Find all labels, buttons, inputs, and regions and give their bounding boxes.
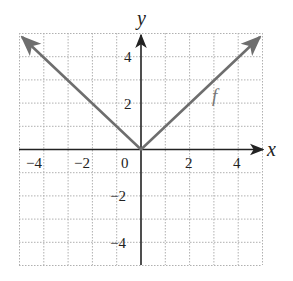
function-label: f: [212, 85, 220, 106]
x-axis-label: x: [266, 138, 276, 160]
y-tick-label: −4: [110, 235, 126, 251]
y-tick-label: 4: [124, 49, 132, 65]
x-tick-label: −2: [74, 155, 90, 171]
y-tick-label: −2: [110, 188, 126, 204]
x-tick-label: −4: [26, 155, 42, 171]
x-tick-label: 2: [185, 155, 193, 171]
y-tick-label: 2: [124, 96, 132, 112]
y-axis-label: y: [135, 7, 146, 30]
coordinate-plane: x y f −4 −2 0 2 4 4 2 −2 −4: [0, 0, 293, 281]
x-tick-label: 4: [233, 155, 241, 171]
origin-label: 0: [121, 155, 129, 171]
